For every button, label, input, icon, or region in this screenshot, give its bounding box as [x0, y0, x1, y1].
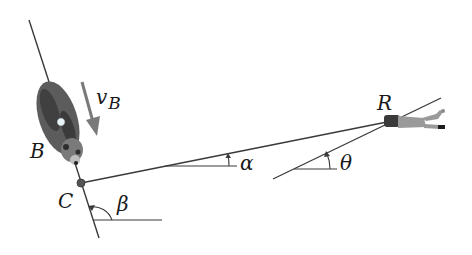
point-c-dot: [77, 179, 85, 187]
alpha-label: α: [240, 151, 254, 175]
diagram-canvas: vB B C β α θ R: [0, 0, 472, 255]
point-c-label: C: [58, 189, 73, 213]
rider-path-line: [273, 98, 441, 179]
velocity-label: vB: [96, 85, 121, 113]
rider-icon: [384, 109, 445, 129]
bear-label: B: [29, 139, 45, 163]
beta-label: β: [116, 192, 129, 216]
bear-path-line-bottom: [74, 160, 99, 238]
rider-label: R: [376, 91, 392, 115]
bear-path-line-top: [29, 20, 50, 85]
theta-label: θ: [340, 151, 352, 175]
